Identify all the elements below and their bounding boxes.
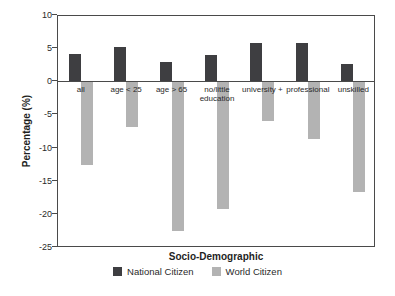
legend-item-world-citizen: World Citizen — [212, 266, 282, 277]
x-category-label-no-little-education: no/little education — [191, 85, 243, 103]
x-category-label-age-65: age > 65 — [146, 85, 198, 94]
bar-national-citizen-age-65 — [160, 62, 172, 81]
bar-world-citizen-unskilled — [353, 82, 365, 191]
x-category-label-university: university + — [236, 85, 288, 94]
x-category-label-unskilled: unskilled — [327, 85, 379, 94]
y-axis-title: Percentage (%) — [21, 95, 32, 167]
y-tick-label: -10 — [18, 143, 52, 153]
y-tick-label: -5 — [18, 109, 52, 119]
y-tick-label: 0 — [18, 76, 52, 86]
legend-item-national-citizen: National Citizen — [113, 266, 194, 277]
y-tick-label: 10 — [18, 10, 52, 20]
bar-national-citizen-professional — [296, 43, 308, 81]
zero-line — [58, 81, 374, 82]
x-axis-title: Socio-Demographic — [57, 251, 375, 262]
bar-world-citizen-all — [81, 82, 93, 165]
legend: National CitizenWorld Citizen — [0, 266, 395, 277]
y-tick-label: -15 — [18, 176, 52, 186]
bar-chart-figure: Percentage (%) 1050-5-10-15-20-25 allage… — [0, 0, 395, 296]
bar-national-citizen-unskilled — [341, 64, 353, 81]
legend-swatch-national-citizen — [113, 267, 122, 276]
x-category-label-age-25: age < 25 — [100, 85, 152, 94]
x-category-label-all: all — [55, 85, 107, 94]
y-tick-label: -20 — [18, 209, 52, 219]
legend-label: National Citizen — [127, 266, 194, 277]
legend-swatch-world-citizen — [212, 267, 221, 276]
bar-national-citizen-all — [69, 54, 81, 82]
x-category-label-professional: professional — [282, 85, 334, 94]
plot-area: allage < 25age > 65no/little educationun… — [57, 15, 375, 247]
legend-label: World Citizen — [226, 266, 282, 277]
bar-world-citizen-age-65 — [172, 82, 184, 231]
bar-national-citizen-university — [250, 43, 262, 81]
bar-national-citizen-no-little-education — [205, 55, 217, 81]
bar-national-citizen-age-25 — [114, 47, 126, 81]
y-tick-label: 5 — [18, 43, 52, 53]
y-tick-label: -25 — [18, 242, 52, 252]
